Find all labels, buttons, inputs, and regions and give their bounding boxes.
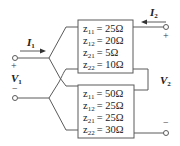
input-terminal-minus bbox=[13, 96, 18, 101]
v2-plus-sign: + bbox=[163, 30, 169, 41]
circuit-diagram: I1 I2 + V1 − + V2 − z11= 25Ω z12= 20Ω z2… bbox=[0, 0, 180, 146]
i1-arrow-head-icon bbox=[40, 49, 46, 54]
output-terminal-plus bbox=[164, 25, 169, 30]
v2-minus-sign: − bbox=[163, 117, 169, 128]
bottom-box-input-lower-wire bbox=[49, 98, 78, 130]
v1-plus-sign: + bbox=[11, 60, 17, 71]
top-box-input-upper-wire bbox=[49, 27, 78, 58]
bottom-network-params: z11= 50Ω z12= 25Ω z21= 25Ω z22= 30Ω bbox=[83, 88, 124, 137]
i1-label: I1 bbox=[26, 36, 35, 50]
series-link-wire bbox=[133, 69, 148, 90]
output-terminal-minus bbox=[164, 131, 169, 136]
top-network-params: z11= 25Ω z12= 20Ω z21= 5Ω z22= 10Ω bbox=[83, 23, 124, 72]
v1-minus-sign: − bbox=[12, 83, 18, 94]
i2-label: I2 bbox=[149, 6, 158, 20]
v2-label: V2 bbox=[160, 74, 171, 88]
i2-arrow-head-icon bbox=[141, 20, 147, 25]
